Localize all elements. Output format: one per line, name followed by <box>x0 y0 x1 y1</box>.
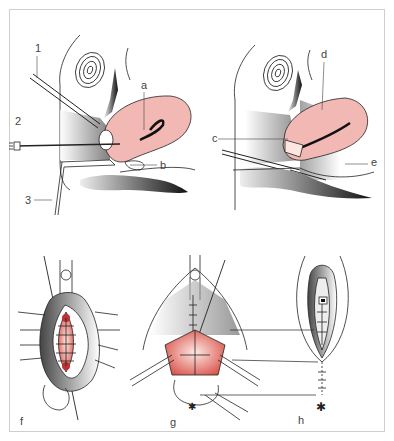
label-h: h <box>298 414 304 426</box>
label-f: f <box>20 415 24 427</box>
panel-f <box>18 256 120 420</box>
label-e: e <box>371 156 377 168</box>
label-g: g <box>170 416 176 428</box>
label-1: 1 <box>35 42 41 54</box>
label-3: 3 <box>25 194 31 206</box>
spiral-icon <box>71 48 110 91</box>
label-c: c <box>212 132 218 144</box>
knot-icon: ✱ <box>188 401 196 412</box>
uterus <box>105 96 191 162</box>
spiral-icon <box>259 51 298 94</box>
figure-illustration: 1 2 3 a b d c e <box>0 0 394 441</box>
label-b: b <box>160 159 166 171</box>
label-d: d <box>321 48 327 60</box>
knot-icon: ✱ <box>316 400 326 414</box>
label-a: a <box>141 79 148 91</box>
label-2: 2 <box>15 115 21 127</box>
panel-top-right <box>222 45 374 210</box>
